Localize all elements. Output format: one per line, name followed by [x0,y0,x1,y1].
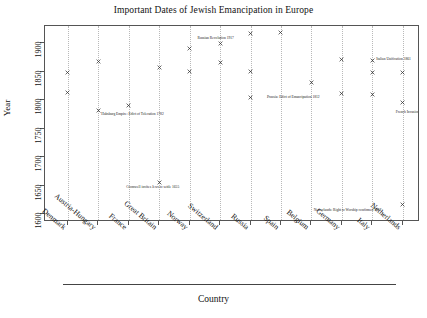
annotation-label: French Invasion 1798 [396,111,419,115]
annotation-label: Italian Unification 1861 [376,58,411,62]
data-point [248,95,253,100]
x-axis-title: Country [0,294,427,304]
data-point [126,103,131,108]
gridline-switzerland [220,26,221,220]
data-point [218,60,223,65]
scatter-chart-figure: Important Dates of Jewish Emancipation i… [0,0,427,318]
data-point [65,90,70,95]
annotation-label: Russian Revolution 1917 [198,37,234,41]
data-point [187,69,192,74]
data-point [309,80,314,85]
annotation-label: Prussia: Edict of Emancipation 1812 [267,96,320,100]
gridline-russia [251,26,252,220]
y-tick-label: 1700 [34,156,43,172]
data-point [400,100,405,105]
gridline-germany [342,26,343,220]
data-point [248,69,253,74]
annotation-label: Cromwell invites Jews to settle 1655 [126,186,179,190]
data-point [65,70,70,75]
data-point [400,202,405,207]
gridline-france [129,26,130,220]
data-point [370,58,375,63]
data-point [370,70,375,75]
chart-title: Important Dates of Jewish Emancipation i… [0,5,427,15]
data-point [339,91,344,96]
gridline-belgium [311,26,312,220]
x-axis-rule [63,284,396,285]
data-point [400,70,405,75]
data-point [339,57,344,62]
y-tick-label: 1650 [34,184,43,200]
data-point [187,46,192,51]
data-point [248,31,253,36]
y-tick-label: 1600 [34,213,43,229]
annotation-label: Habsburg Empire: Edict of Toleration 178… [101,113,163,117]
y-tick-label: 1800 [34,99,43,115]
plot-area: Habsburg Empire: Edict of Toleration 178… [44,25,419,221]
gridline-norway [190,26,191,220]
y-axis-ticks: 1600165017001750180018501900 [0,25,44,221]
gridline-austria-hungary [98,26,99,220]
y-tick-label: 1750 [34,127,43,143]
y-tick-label: 1900 [34,42,43,58]
data-point [278,30,283,35]
gridline-great-britain [159,26,160,220]
data-point [157,65,162,70]
gridline-italy [372,26,373,220]
y-tick-label: 1850 [34,70,43,86]
gridline-netherlands [403,26,404,220]
gridline-denmark [68,26,69,220]
data-point [96,59,101,64]
data-point [370,92,375,97]
gridline-spain [281,26,282,220]
data-point [96,108,101,113]
data-point [218,41,223,46]
x-axis-ticks: DenmarkAustria-HungaryFranceGreat Britai… [44,221,419,291]
